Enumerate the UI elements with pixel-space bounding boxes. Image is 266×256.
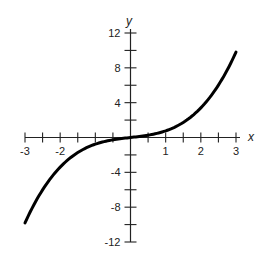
x-axis-label: x: [247, 130, 255, 144]
y-axis-label: y: [125, 14, 133, 28]
x-tick-label: 1: [163, 145, 169, 157]
x-tick-label: -3: [20, 145, 30, 157]
y-tick-label: -12: [105, 236, 121, 248]
y-tick-label: -4: [111, 166, 121, 178]
plot-area: -3-21231284-4-8-12 x y: [0, 0, 266, 256]
axes: [25, 29, 240, 242]
x-tick-label: 2: [198, 145, 204, 157]
y-tick-label: 4: [114, 97, 120, 109]
x-tick-label: -2: [55, 145, 65, 157]
x-tick-label: 3: [233, 145, 239, 157]
y-tick-label: -8: [111, 201, 121, 213]
cubic-function-graph: -3-21231284-4-8-12 x y: [0, 0, 266, 256]
y-tick-label: 12: [108, 27, 120, 39]
y-tick-label: 8: [114, 62, 120, 74]
